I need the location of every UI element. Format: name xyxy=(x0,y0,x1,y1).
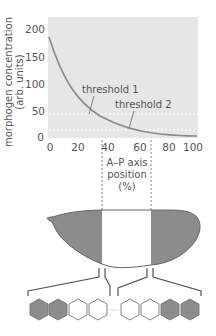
svg-text:50: 50 xyxy=(32,105,45,117)
cell-white xyxy=(89,299,107,320)
embryo xyxy=(40,205,206,275)
svg-text:150: 150 xyxy=(25,51,45,63)
cell-white xyxy=(121,299,139,320)
cell-gray xyxy=(161,299,179,320)
plot-area xyxy=(48,17,198,138)
svg-text:(%): (%) xyxy=(118,181,135,192)
morphogen-diagram: threshold 1 threshold 2 200 150 100 50 0… xyxy=(0,0,216,336)
svg-text:(arb. units): (arb. units) xyxy=(14,54,25,109)
svg-text:100: 100 xyxy=(183,141,203,153)
svg-text:20: 20 xyxy=(71,141,84,153)
svg-text:100: 100 xyxy=(25,78,45,90)
svg-text:40: 40 xyxy=(101,141,114,153)
cell-gray xyxy=(30,299,48,320)
svg-text:morphogen concentration: morphogen concentration xyxy=(3,17,14,147)
cell-gray xyxy=(181,299,199,320)
zoom-brackets xyxy=(28,268,201,296)
svg-text:A–P axis: A–P axis xyxy=(106,157,147,168)
threshold-2-label: threshold 2 xyxy=(115,99,172,110)
embryo-posterior-region xyxy=(151,205,206,275)
y-axis-ticks: 200 150 100 50 0 xyxy=(25,23,45,143)
threshold-1-label: threshold 1 xyxy=(82,84,139,95)
cell-white xyxy=(141,299,159,320)
x-axis-ticks: 0 20 40 60 80 100 xyxy=(47,141,203,153)
embryo-middle-region xyxy=(102,205,151,275)
cell-gray xyxy=(49,299,67,320)
x-axis-label: A–P axis position (%) xyxy=(106,157,147,192)
embryo-anterior-region xyxy=(40,205,102,275)
cell-ellipsis: ····· xyxy=(109,306,119,313)
y-axis-label: morphogen concentration (arb. units) xyxy=(3,17,25,147)
svg-text:200: 200 xyxy=(25,23,45,35)
svg-text:60: 60 xyxy=(133,141,146,153)
svg-text:0: 0 xyxy=(47,141,54,153)
cell-white xyxy=(69,299,87,320)
svg-text:position: position xyxy=(107,169,147,180)
svg-text:80: 80 xyxy=(162,141,175,153)
svg-text:0: 0 xyxy=(37,131,44,143)
